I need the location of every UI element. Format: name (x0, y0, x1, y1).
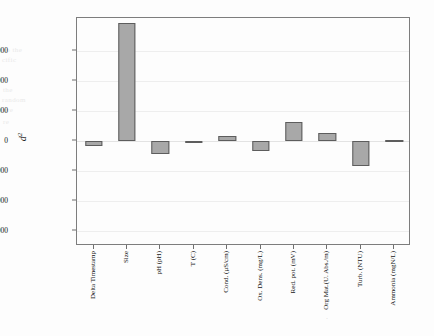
x-tick-slot: Org Mat.(U. Abs./m) (310, 245, 343, 336)
x-tick-slot: Red. pot. (mV) (276, 245, 309, 336)
x-tick-slot: Size (109, 245, 142, 336)
bar (252, 141, 269, 151)
bar-slot (144, 18, 177, 244)
x-tick-slot: Ox. Dens. (mg/L) (243, 245, 276, 336)
x-tick-slot: Ammonia (mgN/L) (377, 245, 410, 336)
y-tick-label: −10000 (0, 196, 8, 205)
x-tick-label: Size (122, 251, 130, 263)
x-tick-label: Delta Timestamp (89, 251, 97, 299)
x-tick-label: Turb. (NTU) (356, 251, 364, 287)
y-tick-label: −5000 (0, 166, 8, 175)
x-tick-mark (193, 245, 194, 249)
bar (219, 136, 236, 141)
x-tick-label: Ox. Dens. (mg/L) (256, 251, 264, 301)
y-tick-label: −15000 (0, 226, 8, 235)
x-tick-label: pH (pH) (155, 251, 163, 275)
x-tick-mark (326, 245, 327, 249)
bar (319, 133, 336, 141)
x-tick-mark (226, 245, 227, 249)
bar (352, 141, 369, 166)
bar (152, 141, 169, 154)
x-tick-slot: Cond. (µS/cm) (210, 245, 243, 336)
x-axis-ticks: Delta TimestampSizepH (pH)T (C)Cond. (µS… (76, 245, 410, 336)
x-tick-slot: pH (pH) (143, 245, 176, 336)
bar-slot (277, 18, 310, 244)
x-tick-label: Ammonia (mgN/L) (389, 251, 397, 306)
bar-chart-figure: to thecifictherandomurere d2 15000100005… (0, 0, 434, 336)
y-tick-label: 0 (4, 136, 8, 145)
x-tick-mark (93, 245, 94, 249)
y-axis-ticks: 150001000050000−5000−10000−15000 (0, 0, 76, 262)
bar-slot (211, 18, 244, 244)
x-tick-mark (293, 245, 294, 249)
bar (85, 141, 102, 146)
x-tick-label: Cond. (µS/cm) (222, 251, 230, 293)
bar-slot (244, 18, 277, 244)
x-tick-mark (260, 245, 261, 249)
x-tick-mark (360, 245, 361, 249)
x-tick-slot: Delta Timestamp (76, 245, 109, 336)
bar-slot (344, 18, 377, 244)
x-tick-mark (393, 245, 394, 249)
plot-area (76, 17, 410, 245)
bar-slot (77, 18, 110, 244)
stray-mark: · (326, 316, 328, 322)
x-tick-label: Org Mat.(U. Abs./m) (322, 251, 330, 310)
x-tick-label: Red. pot. (mV) (289, 251, 297, 293)
x-tick-mark (126, 245, 127, 249)
x-tick-label: T (C) (189, 251, 197, 266)
bar (185, 141, 202, 143)
bar-slot (110, 18, 143, 244)
bar-slot (378, 18, 411, 244)
bar (285, 122, 302, 141)
x-tick-slot: Turb. (NTU) (343, 245, 376, 336)
bar-slot (177, 18, 210, 244)
bar-slot (311, 18, 344, 244)
bar (386, 140, 403, 142)
x-tick-slot: T (C) (176, 245, 209, 336)
x-tick-mark (159, 245, 160, 249)
y-tick-label: 5000 (0, 106, 8, 115)
bar-series (77, 18, 409, 244)
bar (118, 23, 135, 141)
y-tick-label: 10000 (0, 76, 8, 85)
y-tick-label: 15000 (0, 46, 8, 55)
